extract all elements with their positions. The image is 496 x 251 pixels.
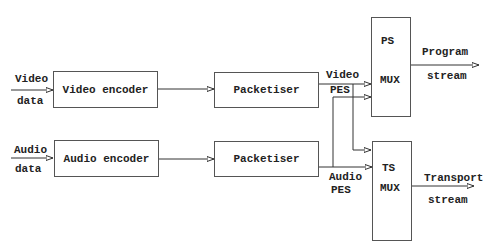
ts-mux-label-2: MUX: [380, 182, 400, 194]
audio-pes-label-1: Audio: [329, 171, 362, 183]
video-encoder-block: Video encoder: [53, 71, 158, 108]
audio-packetiser-block: Packetiser: [214, 141, 319, 177]
video-packetiser-label: Packetiser: [215, 73, 318, 107]
audio-data-label-2: data: [15, 163, 41, 175]
audio-pes-label-2: PES: [331, 184, 351, 196]
video-pes-label-2: PES: [330, 84, 350, 96]
ps-mux-label-1: PS: [381, 35, 394, 47]
audio-encoder-label: Audio encoder: [55, 141, 158, 176]
transport-stream-label-1: Transport: [424, 172, 483, 184]
audio-packetiser-label: Packetiser: [215, 142, 318, 176]
program-stream-label-1: Program: [422, 46, 468, 58]
audio-data-label-1: Audio: [14, 144, 47, 156]
ts-mux-block: TS MUX: [372, 141, 412, 241]
ts-mux-label-1: TS: [382, 162, 395, 174]
program-stream-label-2: stream: [427, 70, 467, 82]
connection-wires: [0, 0, 496, 251]
video-data-label-2: data: [17, 95, 43, 107]
ps-mux-block: PS MUX: [371, 17, 411, 117]
video-encoder-label: Video encoder: [54, 72, 157, 107]
audio-encoder-block: Audio encoder: [54, 140, 159, 177]
video-pes-label-1: Video: [326, 69, 359, 81]
video-packetiser-block: Packetiser: [214, 72, 319, 108]
video-data-label-1: Video: [15, 73, 48, 85]
ps-mux-label-2: MUX: [380, 74, 400, 86]
transport-stream-label-2: stream: [428, 194, 468, 206]
